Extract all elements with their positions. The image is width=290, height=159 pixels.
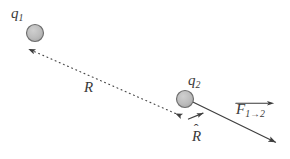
unit-vector-arrow xyxy=(189,113,204,119)
hat-accent-icon: ˆ xyxy=(194,122,199,136)
charge-q2-label-base: q xyxy=(188,72,196,88)
charge-q1-label-subscript: 1 xyxy=(19,12,24,23)
unit-vector-label-wrap: ˆR xyxy=(192,129,201,144)
force-vector-label-wrap: F1→2 xyxy=(236,100,265,119)
diagram-canvas xyxy=(0,0,290,159)
force-subscript-to: 2 xyxy=(260,108,265,119)
charge-q2-label-subscript: 2 xyxy=(196,79,201,90)
charge-q1-label: q1 xyxy=(11,6,23,23)
physics-diagram-figure: q1 q2 R ˆR F1→2 xyxy=(0,0,290,159)
force-vector-label: F1→2 xyxy=(236,100,265,119)
charge-q2-circle xyxy=(177,91,194,108)
unit-vector-label: ˆR xyxy=(192,129,201,144)
charge-q1-circle xyxy=(27,25,44,42)
charge-q1-label-base: q xyxy=(11,5,19,21)
separation-line-R xyxy=(29,49,176,114)
charge-q2-label: q2 xyxy=(188,73,200,90)
separation-distance-label: R xyxy=(84,80,93,95)
force-subscript-arrow-icon: → xyxy=(250,108,260,119)
force-vector-label-base: F xyxy=(236,101,245,117)
